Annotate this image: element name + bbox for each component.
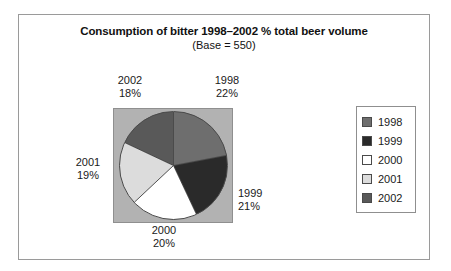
slice-label-2002: 2002 18% <box>110 74 150 99</box>
slice-label-2002-percent: 18% <box>110 87 150 100</box>
slice-label-2000-percent: 20% <box>142 237 186 250</box>
page-title: Consumption of bitter 1998–2002 % total … <box>19 24 429 38</box>
legend-item-2001[interactable]: 2001 <box>362 169 409 188</box>
pie-slice-separators <box>120 112 227 219</box>
legend-swatch-1999 <box>362 136 372 146</box>
legend-swatch-2000 <box>362 155 372 165</box>
legend: 19981999200020012002 <box>356 106 416 213</box>
slice-label-1999: 1999 21% <box>238 187 282 212</box>
legend-swatch-2001 <box>362 174 372 184</box>
legend-label-1998: 1998 <box>378 116 402 128</box>
chart-subtitle: (Base = 550) <box>19 38 429 52</box>
legend-label-1999: 1999 <box>378 135 402 147</box>
legend-label-2000: 2000 <box>378 154 402 166</box>
slice-label-2001-year: 2001 <box>67 156 109 169</box>
slice-label-2001-percent: 19% <box>67 169 109 182</box>
legend-label-2002: 2002 <box>378 192 402 204</box>
slice-label-2001: 2001 19% <box>67 156 109 181</box>
slice-label-1999-year: 1999 <box>238 187 282 200</box>
chart-figure: Consumption of bitter 1998–2002 % total … <box>18 14 430 260</box>
legend-label-2001: 2001 <box>378 173 402 185</box>
title-block: Consumption of bitter 1998–2002 % total … <box>19 24 429 52</box>
slice-label-2000-year: 2000 <box>142 224 186 237</box>
legend-swatch-2002 <box>362 193 372 203</box>
legend-item-1998[interactable]: 1998 <box>362 112 409 131</box>
slice-label-1999-percent: 21% <box>238 200 282 213</box>
plot-area <box>113 108 233 223</box>
pie-chart <box>119 111 228 220</box>
slice-label-2000: 2000 20% <box>142 224 186 249</box>
slice-label-1998: 1998 22% <box>207 74 247 99</box>
slice-label-1998-year: 1998 <box>207 74 247 87</box>
legend-item-2002[interactable]: 2002 <box>362 188 409 207</box>
legend-swatch-1998 <box>362 117 372 127</box>
slice-label-2002-year: 2002 <box>110 74 150 87</box>
slice-label-1998-percent: 22% <box>207 87 247 100</box>
legend-item-1999[interactable]: 1999 <box>362 131 409 150</box>
legend-item-2000[interactable]: 2000 <box>362 150 409 169</box>
